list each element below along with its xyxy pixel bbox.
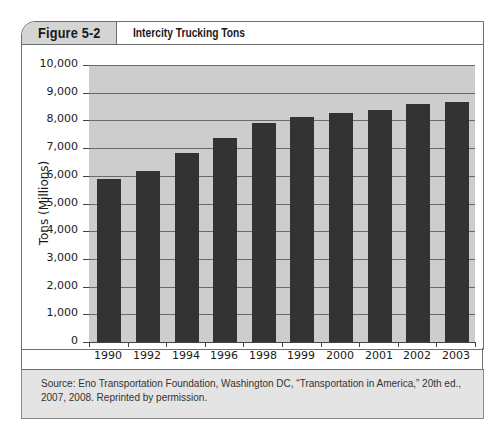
figure-header: Figure 5-2 Intercity Trucking Tons xyxy=(22,22,483,45)
y-tick-label: 0 xyxy=(0,334,78,347)
x-tick-label: 1990 xyxy=(88,349,128,362)
gridline xyxy=(89,93,475,94)
x-tick-label: 1999 xyxy=(281,349,321,362)
x-tick-label: 1994 xyxy=(166,349,206,362)
x-tick-label: 2002 xyxy=(397,349,437,362)
figure-label: Figure 5-2 xyxy=(38,24,101,41)
y-tick-label: 8,000 xyxy=(0,112,78,125)
bar-2000 xyxy=(329,113,353,342)
y-tick-label: 7,000 xyxy=(0,140,78,153)
source-text: Source: Eno Transportation Foundation, W… xyxy=(41,377,471,405)
x-axis-line xyxy=(89,342,475,343)
x-tick-label: 1998 xyxy=(243,349,283,362)
figure-title: Intercity Trucking Tons xyxy=(133,26,245,40)
figure-number-tab: Figure 5-2 xyxy=(22,22,117,44)
bar-1996 xyxy=(213,138,237,342)
frame-edge-right xyxy=(482,348,483,369)
bar-2002 xyxy=(406,104,430,342)
y-tick-label: 5,000 xyxy=(0,196,78,209)
bar-1992 xyxy=(136,171,160,342)
frame-edge-left xyxy=(21,348,22,369)
source-note: Source: Eno Transportation Foundation, W… xyxy=(21,369,484,419)
x-tick-label: 2000 xyxy=(320,349,360,362)
x-tick-label: 2001 xyxy=(359,349,399,362)
y-tick-label: 1,000 xyxy=(0,306,78,319)
y-tick-label: 4,000 xyxy=(0,223,78,236)
bar-2003 xyxy=(445,102,469,342)
bar-2001 xyxy=(368,110,392,342)
bar-1998 xyxy=(252,123,276,342)
bar-1990 xyxy=(97,179,121,342)
y-tick-label: 6,000 xyxy=(0,168,78,181)
gridline xyxy=(89,65,475,66)
y-tick-label: 3,000 xyxy=(0,251,78,264)
x-tick-label: 1992 xyxy=(127,349,167,362)
y-tick-label: 9,000 xyxy=(0,85,78,98)
plot-area xyxy=(89,65,475,342)
y-tick-label: 10,000 xyxy=(0,57,78,70)
x-tick xyxy=(475,342,476,347)
x-tick-label: 2003 xyxy=(436,349,476,362)
bar-1994 xyxy=(175,153,199,342)
bar-1999 xyxy=(290,117,314,342)
y-tick-label: 2,000 xyxy=(0,279,78,292)
x-tick-label: 1996 xyxy=(204,349,244,362)
